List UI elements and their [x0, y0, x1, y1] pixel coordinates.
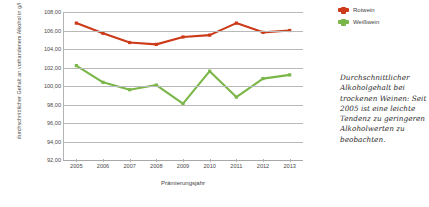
x-axis-tick-mark [130, 159, 131, 162]
x-axis-tick-mark [76, 159, 77, 162]
legend-swatch-icon [338, 20, 349, 24]
x-axis-tick-mark [210, 159, 211, 162]
legend-label: Rotwein [353, 7, 375, 13]
legend-item[interactable]: Weißwein [338, 17, 424, 27]
x-axis-tick-mark [290, 159, 291, 162]
x-axis-tick-mark [103, 159, 104, 162]
x-axis-tick-labels: 200520062007200820092010201120122013 [63, 163, 303, 175]
y-axis-tick-label: 102,00 [21, 65, 61, 71]
plot-area [63, 12, 303, 160]
x-axis-tick-label: 2013 [270, 163, 310, 169]
chart-figure: durchschnittlicher Gehalt an vorhandenem… [0, 0, 429, 207]
x-axis-tick-mark [183, 159, 184, 162]
y-axis-tick-label: 94,00 [21, 139, 61, 145]
chart-caption: Durchschnittlicher Alkoholgehalt bei tro… [340, 73, 428, 145]
chart-legend: RotweinWeißwein [338, 5, 424, 29]
y-axis-tick-label: 104,00 [21, 46, 61, 52]
y-axis-tick-label: 106,00 [21, 28, 61, 34]
legend-label: Weißwein [353, 19, 379, 25]
y-axis-tick-label: 96,00 [21, 120, 61, 126]
plot-frame [63, 12, 303, 160]
y-axis-tick-label: 108,00 [21, 9, 61, 15]
x-axis-tick-mark [263, 159, 264, 162]
x-axis-tick-mark [156, 159, 157, 162]
y-axis-tick-label: 98,00 [21, 102, 61, 108]
legend-item[interactable]: Rotwein [338, 5, 424, 15]
legend-swatch-icon [338, 8, 349, 12]
x-axis-title: Prämierungsjahr [63, 180, 303, 186]
y-axis-tick-label: 100,00 [21, 83, 61, 89]
x-axis-tick-mark [236, 159, 237, 162]
y-axis-tick-label: 92,00 [21, 157, 61, 163]
